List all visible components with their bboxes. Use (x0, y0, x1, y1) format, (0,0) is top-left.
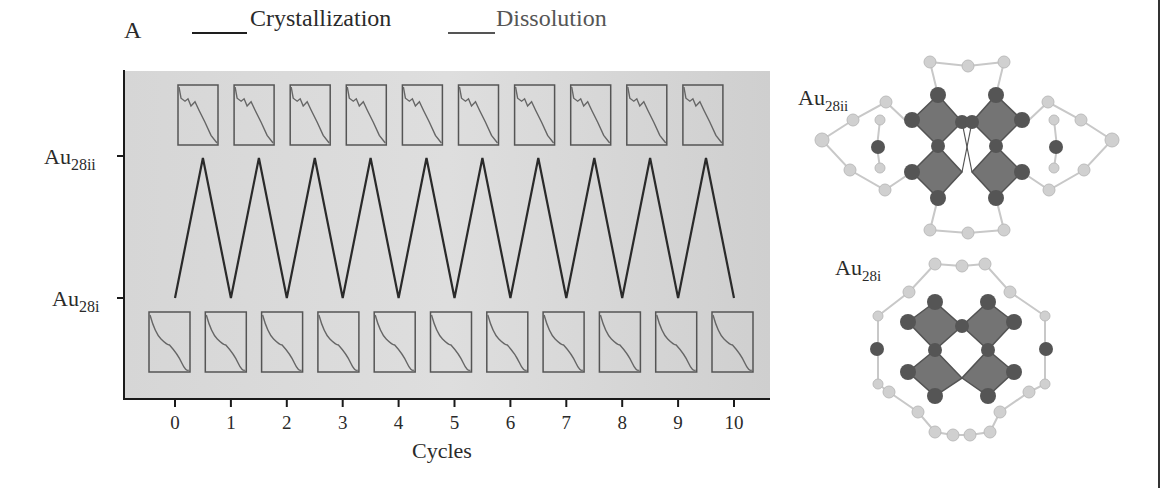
x-tick-label: 7 (562, 412, 572, 433)
x-tick-label: 5 (450, 412, 460, 433)
legend-label-dissolution: Dissolution (496, 5, 607, 31)
y-tick-label-au28ii: Au28ii (44, 144, 96, 173)
x-tick-label: 9 (673, 412, 683, 433)
legend: Crystallization Dissolution (192, 5, 607, 33)
molecule-au28ii-icon (815, 56, 1119, 239)
x-tick-label: 3 (338, 412, 348, 433)
figure: A Crystallization Dissolution Au28ii Au2… (0, 0, 1168, 488)
panel-letter: A (124, 17, 142, 43)
x-ticks: 012345678910 (170, 399, 743, 433)
x-tick-label: 1 (226, 412, 236, 433)
x-tick-label: 4 (394, 412, 404, 433)
x-tick-label: 10 (725, 412, 744, 433)
x-tick-label: 0 (170, 412, 180, 433)
legend-label-crystallization: Crystallization (250, 5, 391, 31)
molecule-au28i-icon (870, 258, 1053, 441)
x-tick-label: 2 (282, 412, 292, 433)
structure-label-au28i: Au28i (835, 255, 881, 284)
x-axis-title: Cycles (412, 438, 472, 463)
plot-area (125, 71, 770, 399)
x-tick-label: 6 (506, 412, 516, 433)
y-tick-label-au28i: Au28i (52, 286, 100, 315)
structure-label-au28ii: Au28ii (798, 85, 848, 114)
x-tick-label: 8 (617, 412, 627, 433)
